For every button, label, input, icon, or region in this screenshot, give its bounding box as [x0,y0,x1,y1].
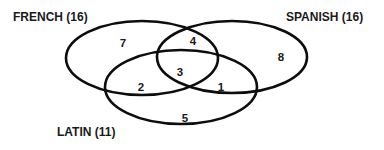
region-latin-only: 5 [182,112,189,124]
region-spanish-only: 8 [278,51,285,63]
latin-set-label: LATIN (11) [57,125,115,139]
french-set-label: FRENCH (16) [13,10,88,24]
region-spanish-latin: 1 [218,81,225,93]
region-french-only: 7 [120,37,126,49]
region-french-latin: 2 [138,81,144,93]
spanish-set-label: SPANISH (16) [286,10,363,24]
region-all-three: 3 [177,66,183,78]
spanish-set-ellipse [157,21,307,93]
venn-diagram: FRENCH (16) SPANISH (16) LATIN (11) 7 4 … [0,0,384,150]
region-french-spanish: 4 [190,35,197,47]
